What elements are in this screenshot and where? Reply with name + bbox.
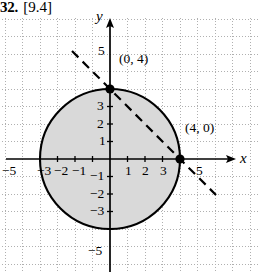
point-marker-4-0: [175, 154, 184, 163]
y-tick-label-1: 1: [99, 134, 106, 147]
x-tick-label--3: −3: [37, 164, 51, 177]
y-tick-label--5: −5: [88, 244, 102, 257]
y-tick-label-5: 5: [98, 44, 105, 57]
problem-number: 32.: [0, 0, 18, 15]
x-tick-label--2: −2: [54, 164, 68, 177]
point-label-0-4: (0, 4): [119, 52, 148, 65]
problem-reference: [9.4]: [23, 0, 52, 15]
y-tick-label--1: −1: [90, 169, 104, 182]
x-tick-label-3: 3: [160, 164, 167, 177]
y-axis-label: y: [96, 10, 103, 23]
point-marker-0-4: [105, 84, 114, 93]
x-tick-label-1: 1: [125, 164, 132, 177]
y-tick-label-3: 3: [97, 99, 104, 112]
y-tick-label-2: 2: [97, 117, 104, 130]
x-tick-label-2: 2: [142, 164, 149, 177]
x-tick-label--1: −1: [72, 164, 86, 177]
point-label-4-0: (4, 0): [185, 121, 214, 134]
y-tick-label--3: −3: [90, 204, 104, 217]
x-tick-label-5: 5: [196, 164, 203, 177]
graph-figure: y x (0, 4) (4, 0) −5 −3 −2 −1 1 2 3 5 5 …: [0, 14, 260, 276]
x-axis-label: x: [240, 152, 247, 165]
figure-page: 32.[9.4]: [0, 0, 260, 276]
y-tick-label--2: −2: [90, 187, 104, 200]
x-tick-label--5: −5: [2, 164, 16, 177]
